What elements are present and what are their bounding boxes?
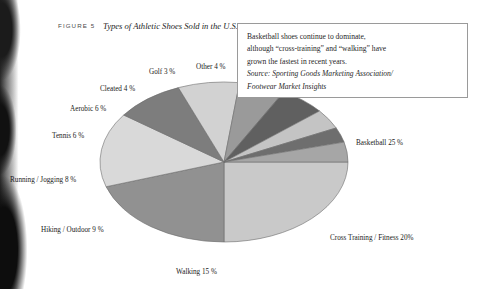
pie-label-aerobic: Aerobic 6 %	[70, 105, 106, 113]
pie-slice-basketball	[224, 162, 348, 242]
pie-label-golf: Golf 3 %	[149, 68, 175, 76]
note-callout-box: Basketball shoes continue to dominate, a…	[237, 23, 468, 98]
pie-label-running: Running / Jogging 8 %	[10, 176, 76, 184]
note-source-line-1: Source: Sporting Goods Marketing Associa…	[247, 68, 458, 80]
pie-label-cleated: Cleated 4 %	[100, 85, 135, 93]
note-line-2: although “cross-training” and “walking” …	[247, 43, 458, 55]
note-line-3: grown the fastest in recent years.	[247, 56, 458, 68]
note-source-line-2: Footwear Market Insights	[247, 81, 458, 93]
pie-label-tennis: Tennis 6 %	[52, 132, 84, 140]
pie-label-basketball: Basketball 25 %	[356, 139, 403, 147]
pie-label-walking: Walking 15 %	[176, 268, 217, 276]
note-line-1: Basketball shoes continue to dominate,	[247, 31, 458, 43]
pie-label-cross-training: Cross Training / Fitness 20%	[330, 234, 413, 242]
pie-label-hiking: Hiking / Outdoor 9 %	[41, 226, 104, 234]
pie-label-other: Other 4 %	[196, 63, 226, 71]
